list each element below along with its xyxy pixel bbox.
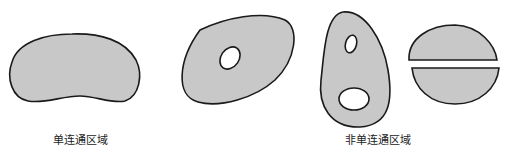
split-ellipse-top-half bbox=[409, 25, 497, 60]
egg-large-hole bbox=[339, 88, 369, 110]
split-ellipse-region bbox=[409, 25, 499, 104]
oval-with-hole-region bbox=[182, 15, 294, 103]
bean-region bbox=[10, 34, 140, 102]
simply-connected-label: 单连通区域 bbox=[53, 131, 108, 147]
split-ellipse-bottom-half bbox=[412, 68, 499, 104]
simply-connected-region bbox=[10, 34, 140, 102]
egg-with-holes-region bbox=[321, 12, 390, 127]
non-simply-connected-label: 非单连通区域 bbox=[345, 131, 411, 147]
